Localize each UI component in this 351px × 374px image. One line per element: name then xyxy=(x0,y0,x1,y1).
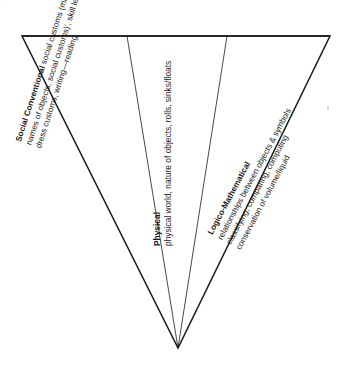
knowledge-types-triangle-diagram: - · · Social Conventional social customs… xyxy=(0,0,351,374)
sector-label-physical-line-2: physical world, nature of objects, rolls… xyxy=(163,61,174,246)
triangle-outer-shape xyxy=(22,36,330,348)
sector-label-physical-heading: Physical xyxy=(152,61,163,246)
sector-label-physical: Physical physical world, nature of objec… xyxy=(152,61,174,246)
